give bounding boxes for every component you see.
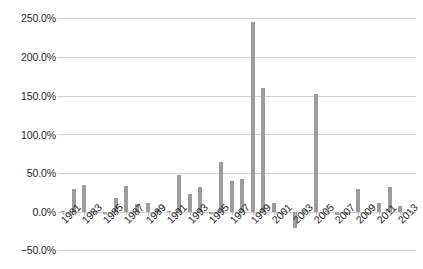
x-tick-mark (348, 212, 349, 215)
x-axis-labels: 1981198319851987198919911993199519971999… (58, 212, 423, 269)
bar (124, 186, 128, 212)
x-tick-mark (221, 212, 222, 215)
x-tick-mark (305, 212, 306, 215)
x-tick-mark (116, 212, 117, 215)
x-tick-mark (158, 212, 159, 215)
bar (314, 94, 318, 212)
y-tick-100: 100.0% (4, 130, 56, 141)
y-tick-150: 150.0% (4, 91, 56, 102)
bar-chart: 250.0% 200.0% 150.0% 100.0% 50.0% 0.0% −… (0, 0, 423, 269)
x-tick-mark (390, 212, 391, 215)
x-tick-mark (327, 212, 328, 215)
bar (261, 88, 265, 212)
x-tick-mark (411, 212, 412, 215)
x-tick-mark (284, 212, 285, 215)
y-tick-250: 250.0% (4, 13, 56, 24)
y-tick-0: 0.0% (4, 207, 56, 218)
x-tick-mark (242, 212, 243, 215)
x-tick-mark (263, 212, 264, 215)
x-tick-mark (200, 212, 201, 215)
bar (82, 185, 86, 212)
y-tick-50: 50.0% (4, 168, 56, 179)
bar (230, 181, 234, 212)
x-tick-mark (179, 212, 180, 215)
x-tick-mark (74, 212, 75, 215)
x-tick-mark (369, 212, 370, 215)
y-tick-200: 200.0% (4, 52, 56, 63)
x-tick-mark (95, 212, 96, 215)
bar (251, 22, 255, 212)
x-tick-mark (137, 212, 138, 215)
y-tick-neg50: −50.0% (4, 245, 56, 256)
y-axis-labels: 250.0% 200.0% 150.0% 100.0% 50.0% 0.0% −… (0, 0, 56, 269)
